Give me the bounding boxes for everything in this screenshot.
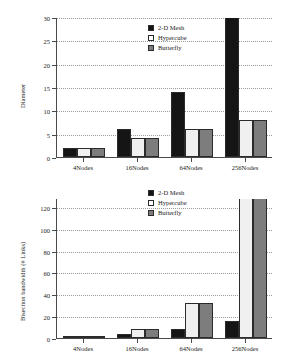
y-tick-label: 100 [20, 226, 50, 233]
y-axis-title-bisection: Bisection bandwidth (# Links) [19, 242, 26, 321]
bar-hypercube [131, 329, 145, 338]
legend-swatch-2d-mesh [148, 25, 154, 31]
bar-mesh [171, 92, 185, 157]
legend-swatch-butterfly [148, 210, 154, 216]
legend-item-butterfly: Butterfly [148, 209, 187, 218]
legend-swatch-butterfly [148, 45, 154, 51]
bar-hypercube [239, 199, 253, 338]
bar-group [63, 18, 105, 157]
x-tick-mark [191, 339, 192, 343]
legend-label-hypercube: Hypercube [158, 199, 187, 208]
bar-mesh [117, 334, 131, 338]
x-tick-mark [137, 339, 138, 343]
y-tick-label: 5 [20, 131, 50, 138]
plot-area-bisection [56, 199, 272, 339]
bar-group [117, 199, 159, 338]
y-tick-label: 30 [20, 15, 50, 22]
legend-label-2d-mesh: 2-D Mesh [158, 24, 184, 33]
bar-butterfly [199, 303, 213, 338]
legend-label-butterfly: Butterfly [158, 209, 181, 218]
x-tick-mark [137, 158, 138, 162]
bar-butterfly [145, 329, 159, 338]
bar-hypercube [131, 138, 145, 157]
bar-hypercube [185, 303, 199, 338]
x-tick-label: 256Nodes [217, 164, 273, 171]
y-tick-label: 20 [20, 61, 50, 68]
bar-group [225, 18, 267, 157]
x-tick-label: 256Nodes [217, 345, 273, 352]
bar-mesh [225, 321, 239, 339]
bar-butterfly [253, 120, 267, 157]
y-tick-mark [52, 339, 56, 340]
chart-panel-bisection-bandwidth: 020406080100120 Bisection bandwidth (# L… [0, 181, 294, 361]
y-tick-label: 25 [20, 38, 50, 45]
bar-hypercube [185, 129, 199, 157]
y-tick-mark [52, 158, 56, 159]
legend-item-2d-mesh: 2-D Mesh [148, 24, 187, 33]
legend-swatch-hypercube [148, 35, 154, 41]
legend-swatch-hypercube [148, 200, 154, 206]
x-tick-mark [83, 158, 84, 162]
x-tick-mark [245, 158, 246, 162]
y-tick-label: 0 [20, 336, 50, 343]
y-tick-label: 0 [20, 155, 50, 162]
bar-group [171, 199, 213, 338]
legend-item-2d-mesh: 2-D Mesh [148, 189, 187, 198]
x-tick-mark [245, 339, 246, 343]
bar-group [63, 199, 105, 338]
bar-butterfly [253, 199, 267, 338]
bar-mesh [225, 18, 239, 157]
legend-label-butterfly: Butterfly [158, 44, 181, 53]
legend-item-hypercube: Hypercube [148, 34, 187, 43]
y-tick-label: 120 [20, 204, 50, 211]
x-tick-label: 64Nodes [163, 164, 219, 171]
x-tick-mark [83, 339, 84, 343]
bar-mesh [63, 148, 77, 157]
x-tick-label: 64Nodes [163, 345, 219, 352]
bar-mesh [171, 329, 185, 338]
figure-container: 051015202530 Diameter 2-D Mesh Hypercube… [0, 0, 294, 361]
legend-swatch-2d-mesh [148, 190, 154, 196]
legend-bisection: 2-D Mesh Hypercube Butterfly [148, 189, 187, 219]
legend-diameter: 2-D Mesh Hypercube Butterfly [148, 24, 187, 54]
legend-label-2d-mesh: 2-D Mesh [158, 189, 184, 198]
legend-item-butterfly: Butterfly [148, 44, 187, 53]
x-tick-label: 4Nodes [55, 345, 111, 352]
legend-label-hypercube: Hypercube [158, 34, 187, 43]
bar-butterfly [91, 336, 105, 338]
x-tick-mark [191, 158, 192, 162]
y-tick-label: 10 [20, 108, 50, 115]
bar-butterfly [199, 129, 213, 157]
legend-item-hypercube: Hypercube [148, 199, 187, 208]
x-tick-label: 16Nodes [109, 164, 165, 171]
chart-panel-diameter: 051015202530 Diameter 2-D Mesh Hypercube… [0, 0, 294, 180]
bar-mesh [117, 129, 131, 157]
bar-hypercube [77, 336, 91, 338]
x-tick-label: 16Nodes [109, 345, 165, 352]
bar-butterfly [91, 148, 105, 157]
bar-butterfly [145, 138, 159, 157]
bar-hypercube [239, 120, 253, 157]
bar-hypercube [77, 148, 91, 157]
bar-mesh [63, 336, 77, 338]
bar-group [225, 199, 267, 338]
x-tick-label: 4Nodes [55, 164, 111, 171]
y-axis-title-diameter: Diameter [19, 84, 26, 108]
